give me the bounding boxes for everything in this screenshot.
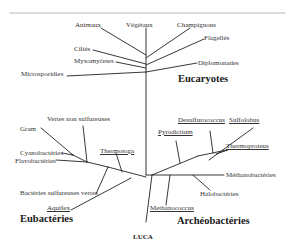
taxon-bacteries-sulfureuses-vertes: Bactéries sulfureuses vertes <box>20 190 98 197</box>
branch-animaux <box>101 28 146 55</box>
group-archeobacteries: Archéobactéries <box>177 216 250 227</box>
taxon-methanobacteries: Méthanobactéries <box>226 172 276 179</box>
taxon-champignons: Champignons <box>177 22 216 29</box>
branch-desulfurococcus <box>210 131 213 153</box>
branch-eubacteria-main <box>108 167 146 177</box>
taxon-thermoproteus: Thermoproteus <box>226 143 269 150</box>
branch-eubacteria-inner <box>87 162 108 167</box>
trunk-lower <box>146 175 152 222</box>
branch-archaea-main <box>152 156 198 175</box>
branch-diplomonades <box>146 63 197 72</box>
taxon-myxomycetes: Myxomyčetes <box>74 58 114 65</box>
taxon-sulfolobus: Sulfolobus <box>229 117 259 124</box>
taxon-methanococcus: Methanococcus <box>150 205 194 212</box>
taxon-vertes-non-sulfureuses: Vertes non sulfureuses <box>47 116 110 123</box>
taxon-halobacteries: Halobactéries <box>200 191 238 198</box>
taxon-aquifex: Aquifex <box>47 205 70 212</box>
branch-champignons <box>146 28 190 58</box>
taxon-vegetaux: Végétaux <box>126 22 153 29</box>
branch-vertes-non-sulfureuses <box>83 126 87 162</box>
taxon-thermotoga: Thermotoga <box>100 148 134 155</box>
taxon-desulfurococcus: Desulfurococcus <box>178 117 225 124</box>
taxon-microsporidies: Microsporidies <box>21 71 63 78</box>
group-eucaryotes: Eucaryotes <box>178 74 228 85</box>
taxon-cyanobacteries: Cyanobactéries <box>20 150 63 157</box>
branch-pyrodictium <box>176 141 180 163</box>
taxon-diplomonades: Diplomonades <box>198 60 239 67</box>
branch-methanococcus <box>166 175 170 205</box>
taxon-gram: Gram <box>20 126 36 133</box>
branch-halobacteries <box>193 175 210 190</box>
taxon-flavobacteries: Flavobactéries <box>15 158 56 165</box>
taxon-animaux: Animaux <box>75 22 101 29</box>
branch-flavobacteries <box>56 160 87 162</box>
taxon-cilies: Ciliés <box>74 46 90 53</box>
taxon-pyrodictium: Pyrodictium <box>158 129 193 136</box>
root-luca: LUCA <box>133 234 153 241</box>
group-eubacteries: Eubactéries <box>20 214 73 225</box>
branch-microsporidies <box>67 72 146 76</box>
taxon-flagelles: Flagellés <box>204 35 229 42</box>
